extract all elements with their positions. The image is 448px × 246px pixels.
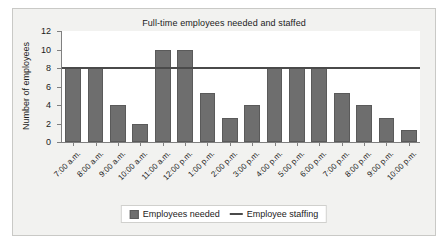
line-swatch-icon [230, 213, 243, 215]
y-axis-tick-label: 2 [29, 119, 51, 129]
y-axis-ticks: 024681012 [53, 31, 61, 142]
x-axis-labels: 7:00 a.m.8:00 a.m.9:00 a.m.10:00 a.m.11:… [61, 143, 419, 199]
bar [222, 118, 238, 142]
bar-swatch-icon [130, 210, 139, 219]
bar [267, 68, 283, 142]
chart-container: Full-time employees needed and staffed N… [12, 8, 436, 236]
bar [244, 105, 260, 142]
legend-item-employees-needed: Employees needed [130, 209, 220, 219]
bar [155, 50, 171, 143]
y-axis-tick-label: 8 [29, 63, 51, 73]
plot-area [61, 31, 420, 143]
bar [356, 105, 372, 142]
bar [311, 68, 327, 142]
y-axis-tick-label: 12 [29, 26, 51, 36]
bar [88, 68, 104, 142]
y-axis-tick-label: 10 [29, 45, 51, 55]
legend-item-employee-staffing: Employee staffing [230, 209, 318, 219]
y-axis-tick-label: 6 [29, 82, 51, 92]
legend-label-employee-staffing: Employee staffing [247, 209, 318, 219]
y-axis-tick-label: 0 [29, 137, 51, 147]
bar [65, 68, 81, 142]
bar [401, 130, 417, 142]
legend-label-employees-needed: Employees needed [143, 209, 220, 219]
y-axis-tick-label: 4 [29, 100, 51, 110]
bar [334, 93, 350, 142]
chart-legend: Employees needed Employee staffing [121, 205, 327, 223]
chart-title: Full-time employees needed and staffed [13, 18, 435, 28]
bar [177, 50, 193, 143]
bar [289, 68, 305, 142]
bar [110, 105, 126, 142]
bar [132, 124, 148, 143]
bar [200, 93, 216, 142]
employee-staffing-line [62, 67, 420, 69]
bar [379, 118, 395, 142]
